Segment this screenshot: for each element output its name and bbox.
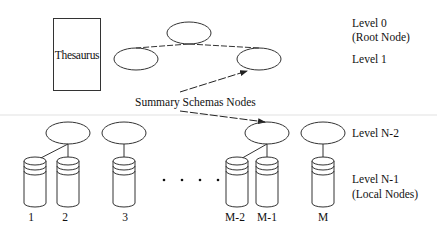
thesaurus-label: Thesaurus xyxy=(55,49,100,61)
callout-arrow-up xyxy=(180,71,247,92)
root-node xyxy=(167,22,211,44)
level1-node-left xyxy=(114,48,158,70)
local-node-label-m-2: M-2 xyxy=(220,211,250,224)
local-node-2 xyxy=(57,157,79,207)
local-node-label-m-1: M-1 xyxy=(252,211,282,224)
levelN2-node-4 xyxy=(301,122,345,144)
local-node-3 xyxy=(113,157,135,207)
local-node-label-1: 1 xyxy=(16,211,46,224)
level1-node-right xyxy=(237,48,281,70)
local-node-m-1 xyxy=(256,157,278,207)
local-node-m-2 xyxy=(226,157,248,207)
thesaurus-box: Thesaurus xyxy=(53,18,101,91)
levelN1-sub-label: (Local Nodes) xyxy=(352,188,418,201)
levelN2-label: Level N-2 xyxy=(352,127,399,140)
edge-root-left xyxy=(136,44,189,48)
edge-root-right xyxy=(189,44,259,48)
level0-label: Level 0 xyxy=(352,17,387,30)
callout-arrow-down xyxy=(180,111,265,122)
levelN2-node-3 xyxy=(245,122,289,144)
local-node-label-2: 2 xyxy=(50,211,80,224)
level0-sub-label: (Root Node) xyxy=(352,31,410,44)
level1-label: Level 1 xyxy=(352,53,387,66)
levelN2-node-1 xyxy=(46,122,90,144)
local-node-label-m: M xyxy=(308,211,338,224)
ellipsis-dots xyxy=(163,179,220,182)
local-node-label-3: 3 xyxy=(110,211,140,224)
levelN2-node-2 xyxy=(102,122,146,144)
local-node-1 xyxy=(24,157,46,207)
callout-label: Summary Schemas Nodes xyxy=(135,96,256,109)
levelN1-label: Level N-1 xyxy=(352,173,399,186)
local-node-m xyxy=(312,157,334,207)
